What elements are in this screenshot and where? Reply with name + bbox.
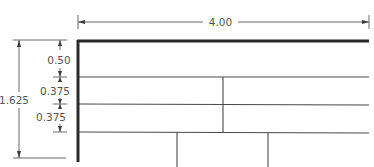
width-dimension-label: 4.00 [209,16,232,28]
drawing-canvas: 4.00 1.625 0.50 0.375 0.375 [0,0,374,167]
height-arrow-top [17,40,21,47]
row2-arrow-bottom [58,99,62,104]
row1-dimension-label: 0.50 [47,54,70,66]
title-block [77,40,369,167]
row-divider-2 [79,104,369,105]
row3-arrow-bottom [58,126,62,132]
row1-arrow-bottom [58,71,62,77]
height-arrow-bottom [17,151,21,158]
row2-dimension-label: 0.375 [40,85,70,97]
height-dimension-label: 1.625 [0,94,29,106]
row-divider-3 [79,132,369,133]
row3-dimension-label: 0.375 [36,111,66,123]
row3-arrow-top [58,104,62,109]
width-arrow-right [362,20,369,24]
row1-arrow-top [58,40,62,46]
row2-arrow-top [58,77,62,82]
width-arrow-left [78,20,85,24]
width-dimension: 4.00 [78,15,369,29]
row-dimensions: 0.50 0.375 0.375 [36,40,71,132]
